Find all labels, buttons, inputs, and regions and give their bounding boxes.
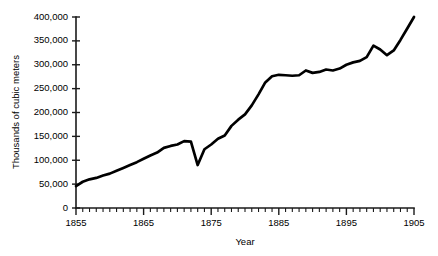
y-tick-label: 100,000 bbox=[34, 154, 68, 165]
x-tick-label: 1885 bbox=[268, 217, 289, 228]
y-axis-tick-labels: 050,000100,000150,000200,000250,000300,0… bbox=[34, 11, 68, 213]
y-tick-label: 250,000 bbox=[34, 82, 68, 93]
y-tick-label: 400,000 bbox=[34, 11, 68, 22]
y-tick-label: 50,000 bbox=[39, 178, 68, 189]
y-tick-label: 300,000 bbox=[34, 58, 68, 69]
x-tick-label: 1855 bbox=[65, 217, 86, 228]
x-tick-label: 1865 bbox=[133, 217, 154, 228]
y-axis-title: Thousands of cubic meters bbox=[10, 55, 21, 169]
x-axis-title: Year bbox=[235, 236, 254, 247]
y-tick-label: 350,000 bbox=[34, 34, 68, 45]
x-tick-label: 1895 bbox=[336, 217, 357, 228]
x-tick-label: 1905 bbox=[403, 217, 424, 228]
x-tick-label: 1875 bbox=[201, 217, 222, 228]
y-tick-label: 200,000 bbox=[34, 106, 68, 117]
y-tick-label: 0 bbox=[63, 202, 68, 213]
y-tick-label: 150,000 bbox=[34, 130, 68, 141]
production-line-chart: 050,000100,000150,000200,000250,000300,0… bbox=[0, 0, 438, 256]
